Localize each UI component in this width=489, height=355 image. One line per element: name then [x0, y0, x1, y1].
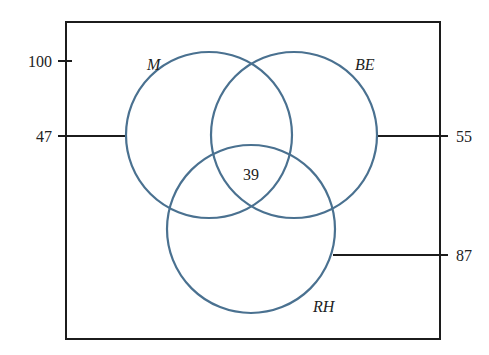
set-circle-be	[211, 52, 377, 218]
set-label-rh: RH	[312, 298, 336, 315]
callout-value: 47	[36, 128, 52, 145]
set-circle-m	[126, 52, 292, 218]
callout-value: 100	[28, 53, 52, 70]
set-label-be: BE	[355, 56, 375, 73]
callout-value: 55	[456, 128, 472, 145]
center-intersection-value: 39	[243, 166, 259, 183]
venn-diagram: MBERH 39 100475587	[0, 0, 489, 355]
callout-value: 87	[456, 247, 472, 264]
callout-values: 100475587	[28, 53, 472, 264]
callout-lines	[58, 61, 448, 255]
set-label-m: M	[146, 56, 162, 73]
